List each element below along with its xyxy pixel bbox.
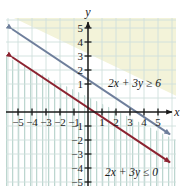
y-axis-label: y	[84, 5, 91, 19]
x-tick-label-4: 4	[141, 116, 147, 128]
x-tick-label-5: 5	[155, 116, 161, 128]
y-tick-label-neg4: −4	[71, 162, 83, 174]
x-tick-label-2: 2	[113, 116, 119, 128]
x-tick-label-neg2: −2	[54, 116, 66, 128]
inequality-graph-figure: −5 −4 −3 −2 −1 1 2 3 4 5 5 4 3 2 1 −1 −2…	[0, 0, 183, 192]
y-tick-label-2: 2	[78, 64, 84, 76]
lower-inequality-label: 2x + 3y ≤ 0	[105, 166, 158, 179]
y-tick-label-neg2: −2	[71, 134, 83, 146]
y-tick-label-neg5: −5	[71, 176, 83, 188]
x-tick-label-1: 1	[99, 116, 105, 128]
graph-canvas: −5 −4 −3 −2 −1 1 2 3 4 5 5 4 3 2 1 −1 −2…	[0, 0, 183, 192]
y-tick-label-neg3: −3	[71, 148, 83, 160]
y-tick-label-4: 4	[78, 36, 84, 48]
y-tick-label-1: 1	[78, 78, 84, 90]
upper-inequality-label: 2x + 3y ≥ 6	[108, 77, 161, 90]
y-tick-label-neg1: −1	[71, 120, 83, 132]
x-axis-label: x	[173, 105, 180, 119]
x-tick-label-3: 3	[127, 116, 133, 128]
x-tick-label-neg4: −4	[26, 116, 38, 128]
y-tick-label-3: 3	[78, 50, 84, 62]
x-tick-label-neg3: −3	[40, 116, 52, 128]
y-tick-label-5: 5	[78, 22, 84, 34]
x-tick-label-neg5: −5	[12, 116, 24, 128]
